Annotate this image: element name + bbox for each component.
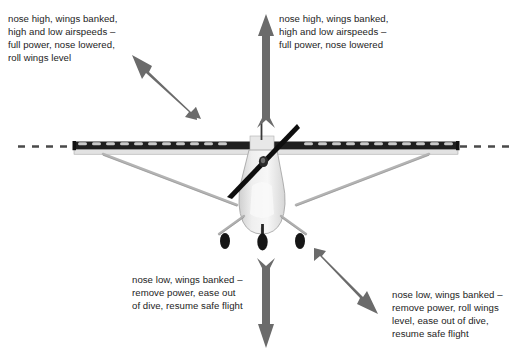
arrow-down [257,258,275,348]
arrow-up-left [132,55,201,120]
aircraft-wheels [220,233,305,250]
unusual-attitude-recovery-diagram: nose high, wings banked, high and low ai… [0,0,532,362]
aircraft-front-view [73,121,460,250]
callout-nose-high-wings-banked: nose high, wings banked, high and low ai… [279,12,388,51]
callout-nose-low-wings-banked-roll-level: nose low, wings banked – remove power, r… [392,288,503,340]
callout-nose-high-wings-banked-roll-level: nose high, wings banked, high and low ai… [8,12,117,64]
arrow-down-right [314,248,378,314]
callout-nose-low-wings-banked-ease-out: nose low, wings banked – remove power, e… [132,273,243,312]
arrow-up [257,14,275,128]
